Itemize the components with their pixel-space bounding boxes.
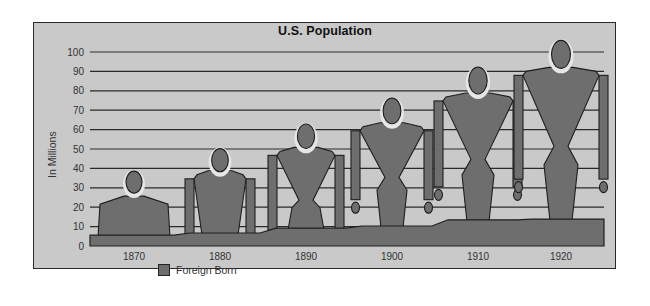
x-axis-labels: 187018801890190019101920: [123, 251, 573, 262]
y-tick-label: 30: [73, 182, 85, 193]
head-icon: [552, 40, 571, 68]
y-tick-label: 60: [73, 124, 85, 135]
x-tick-label: 1910: [467, 251, 490, 262]
y-tick-label: 100: [67, 47, 84, 58]
head-icon: [212, 149, 229, 172]
y-tick-label: 80: [73, 85, 85, 96]
legend-label: Foreign Born: [176, 264, 237, 276]
figure-1900: [351, 97, 433, 228]
head-icon: [383, 98, 401, 124]
legend-swatch-foreign-born: [158, 264, 170, 276]
chart-container: U.S. Population In Millions 010203040506…: [0, 0, 650, 306]
y-tick-label: 20: [73, 202, 85, 213]
y-tick-label: 40: [73, 163, 85, 174]
figure-1880: [185, 148, 255, 235]
x-tick-label: 1890: [295, 251, 318, 262]
y-tick-label: 90: [73, 66, 85, 77]
legend: Foreign Born: [158, 264, 237, 276]
y-tick-label: 0: [78, 241, 84, 252]
head-icon: [469, 67, 487, 94]
y-tick-label: 70: [73, 105, 85, 116]
figure-1910: [434, 66, 522, 222]
y-tick-label: 50: [73, 144, 85, 155]
head-icon: [297, 124, 314, 148]
y-tick-label: 10: [73, 221, 85, 232]
x-tick-label: 1870: [123, 251, 146, 262]
x-tick-label: 1920: [550, 251, 573, 262]
x-tick-label: 1880: [209, 251, 232, 262]
head-icon: [126, 171, 142, 193]
figure-1870: [98, 170, 170, 237]
plot-area: 0102030405060708090100 18701880189019001…: [0, 0, 650, 306]
y-axis-ticks: 0102030405060708090100: [67, 47, 84, 252]
x-tick-label: 1900: [381, 251, 404, 262]
figure-1890: [268, 123, 344, 230]
